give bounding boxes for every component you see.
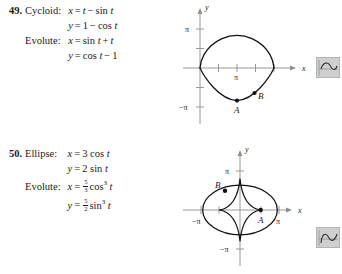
x-axis-label: x bbox=[301, 64, 306, 73]
problem-50-curve-name: Ellipse: bbox=[25, 147, 68, 162]
mini-graph-icon bbox=[317, 228, 340, 248]
fraction-five-halves: 52 bbox=[83, 198, 88, 213]
ellipse-plot: x y π −π −π π A B bbox=[178, 140, 318, 274]
y-axis-arrow bbox=[238, 150, 243, 156]
spacer bbox=[25, 19, 68, 34]
point-B-label: B bbox=[215, 180, 221, 190]
problem-49-equations: 49. Cycloid: x=t−sin t y=1−cos t Evolute… bbox=[0, 4, 117, 64]
point-B-label: B bbox=[258, 91, 264, 101]
problem-50: 50. Ellipse: x=3 cos t y=2 sin t Evolute… bbox=[0, 147, 113, 215]
problem-49-equation-2: y=1−cos t bbox=[68, 19, 117, 34]
problem-50-evolute-equation-2: y=52sin3 t bbox=[68, 196, 113, 215]
x-axis-arrow bbox=[290, 66, 296, 71]
spacer bbox=[0, 162, 25, 177]
problem-50-equations: 50. Ellipse: x=3 cos t y=2 sin t Evolute… bbox=[0, 147, 113, 215]
table-row: Evolute: x=sin t+t bbox=[0, 34, 117, 49]
spacer bbox=[25, 49, 68, 64]
cycloid-figure: x y π −π π A B bbox=[178, 0, 318, 134]
problem-50-equation-2: y=2 sin t bbox=[68, 162, 113, 177]
problem-50-equation-1: x=3 cos t bbox=[68, 147, 113, 162]
y-tick-label-neg-pi: −π bbox=[220, 245, 229, 254]
ellipse-figure: x y π −π −π π A B bbox=[178, 140, 318, 274]
problem-50-evolute-label: Evolute: bbox=[25, 177, 68, 196]
graph-thumbnail-icon-49[interactable] bbox=[316, 57, 340, 78]
table-row: 49. Cycloid: x=t−sin t bbox=[0, 4, 117, 19]
problem-49-evolute-equation-2: y=cos t−1 bbox=[68, 49, 117, 64]
point-B-marker bbox=[223, 189, 227, 193]
problem-49-number: 49. bbox=[0, 4, 25, 19]
y-tick-label-neg-pi: −π bbox=[179, 103, 188, 112]
point-A-marker bbox=[235, 99, 239, 103]
problem-50-number: 50. bbox=[0, 147, 25, 162]
x-axis-arrow bbox=[286, 208, 292, 213]
textbook-page: 49. Cycloid: x=t−sin t y=1−cos t Evolute… bbox=[0, 0, 342, 274]
point-A-label: A bbox=[257, 215, 264, 225]
point-B-marker bbox=[252, 91, 256, 95]
spacer bbox=[25, 162, 68, 177]
spacer bbox=[0, 177, 25, 196]
point-A-label: A bbox=[233, 105, 240, 115]
point-A-marker bbox=[259, 208, 263, 212]
table-row: y=cos t−1 bbox=[0, 49, 117, 64]
table-row: y=52sin3 t bbox=[0, 196, 113, 215]
problem-49-evolute-label: Evolute: bbox=[25, 34, 68, 49]
y-axis-label: y bbox=[204, 3, 209, 12]
mini-graph-icon bbox=[317, 58, 340, 78]
spacer bbox=[0, 49, 25, 64]
spacer bbox=[0, 19, 25, 34]
x-tick-label-pi: π bbox=[234, 73, 238, 82]
x-tick-label-neg-pi: −π bbox=[192, 217, 201, 226]
fraction-five-thirds: 53 bbox=[83, 179, 88, 194]
problem-49-curve-name: Cycloid: bbox=[25, 4, 68, 19]
table-row: y=2 sin t bbox=[0, 162, 113, 177]
y-tick-label-pi: π bbox=[185, 25, 189, 34]
table-row: Evolute: x=53cos3 t bbox=[0, 177, 113, 196]
x-tick-label-pi: π bbox=[276, 217, 280, 226]
problem-49-equation-1: x=t−sin t bbox=[68, 4, 117, 19]
table-row: 50. Ellipse: x=3 cos t bbox=[0, 147, 113, 162]
spacer bbox=[0, 34, 25, 49]
graph-thumbnail-icon-50[interactable] bbox=[316, 227, 340, 248]
problem-49: 49. Cycloid: x=t−sin t y=1−cos t Evolute… bbox=[0, 4, 117, 64]
table-row: y=1−cos t bbox=[0, 19, 117, 34]
spacer bbox=[25, 196, 68, 215]
y-axis-label: y bbox=[244, 145, 249, 154]
cycloid-curve bbox=[200, 35, 274, 68]
cycloid-plot: x y π −π π A B bbox=[178, 0, 318, 134]
y-axis-arrow bbox=[198, 8, 203, 14]
problem-50-evolute-equation-1: x=53cos3 t bbox=[68, 177, 113, 196]
x-axis-label: x bbox=[297, 206, 302, 215]
spacer bbox=[0, 196, 25, 215]
problem-49-evolute-equation-1: x=sin t+t bbox=[68, 34, 117, 49]
y-tick-label-pi: π bbox=[225, 167, 229, 176]
